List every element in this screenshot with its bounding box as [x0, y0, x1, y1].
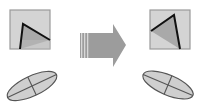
- transformation-diagram: [0, 0, 199, 107]
- after-ellipse-figure: [139, 65, 197, 105]
- before-square-figure: [10, 10, 50, 49]
- before-ellipse-figure: [3, 66, 60, 107]
- after-square-figure: [150, 10, 190, 49]
- right-arrow-icon: [80, 24, 126, 67]
